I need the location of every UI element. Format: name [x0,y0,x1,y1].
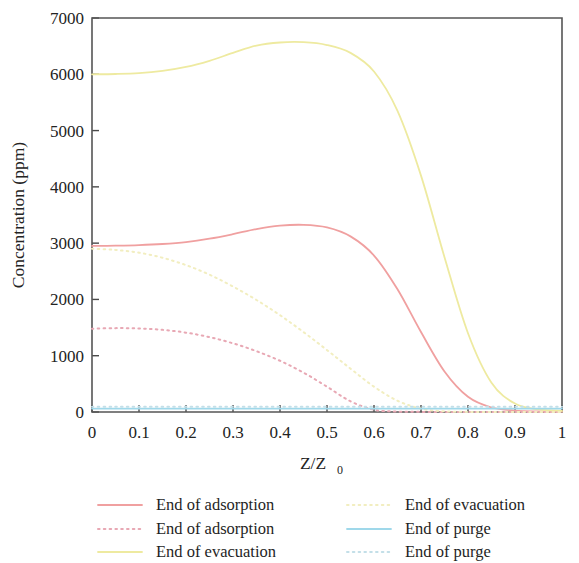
legend-label: End of purge [405,542,491,561]
y-axis-tick-labels: 01000200030004000500060007000 [50,9,84,422]
x-tick-label: 0.6 [363,423,384,442]
x-tick-label: 0.4 [269,423,291,442]
legend-label: End of purge [405,519,491,538]
x-tick-label: 0.2 [175,423,196,442]
legend-label: End of adsorption [156,495,274,514]
x-axis-title: Z/Z [300,453,326,473]
x-tick-label: 0.5 [316,423,337,442]
x-tick-label: 1 [558,423,567,442]
y-tick-label: 7000 [50,9,84,28]
x-tick-label: 0.8 [457,423,478,442]
y-tick-label: 2000 [50,290,84,309]
x-tick-label: 0 [88,423,97,442]
legend-label: End of evacuation [156,542,276,561]
y-tick-label: 0 [76,403,85,422]
x-tick-label: 0.3 [222,423,243,442]
y-tick-label: 1000 [50,347,84,366]
data-series-group [92,42,562,412]
legend-label: End of adsorption [156,519,274,538]
chart-legend: End of adsorptionEnd of evacuationEnd of… [98,495,525,561]
chart-figure: 01000200030004000500060007000 00.10.20.3… [0,0,579,563]
plot-frame [92,18,562,412]
series-line-2 [92,328,562,412]
axis-tick-marks [92,18,562,412]
x-tick-label: 0.1 [128,423,149,442]
legend-label: End of evacuation [405,495,525,514]
x-tick-label: 0.9 [504,423,525,442]
x-tick-label: 0.7 [410,423,432,442]
y-tick-label: 6000 [50,65,84,84]
chart-svg: 01000200030004000500060007000 00.10.20.3… [0,0,579,563]
y-tick-label: 4000 [50,178,84,197]
y-tick-label: 5000 [50,122,84,141]
y-tick-label: 3000 [50,234,84,253]
y-axis-title: Concentration (ppm) [8,142,28,288]
series-line-3 [92,42,562,411]
x-axis-title-subscript: 0 [337,463,343,477]
x-axis-tick-labels: 00.10.20.30.40.50.60.70.80.91 [88,423,567,442]
